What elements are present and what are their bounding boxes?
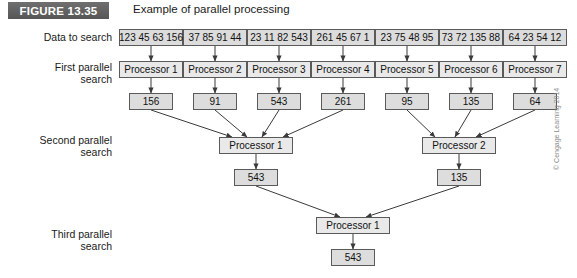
first-processor-box: Processor 3	[247, 61, 311, 78]
data-segment-box: 123 45 63 156	[119, 29, 183, 46]
first-processor-box: Processor 1	[119, 61, 183, 78]
figure-number-badge: FIGURE 13.35	[8, 2, 109, 19]
first-result-box: 261	[321, 93, 365, 110]
figure-caption: Example of parallel processing	[133, 3, 290, 15]
third-processor-box: Processor 1	[316, 217, 390, 234]
data-segment-box: 73 72 135 88	[439, 29, 503, 46]
third-result-box: 543	[331, 249, 375, 266]
data-segment-box: 23 11 82 543	[247, 29, 311, 46]
first-result-box: 95	[385, 93, 429, 110]
first-result-box: 543	[257, 93, 301, 110]
first-processor-box: Processor 5	[375, 61, 439, 78]
label-first-parallel-search: First parallel search	[20, 61, 112, 85]
label-data-to-search: Data to search	[20, 31, 112, 43]
first-processor-box: Processor 2	[183, 61, 247, 78]
first-result-box: 91	[193, 93, 237, 110]
data-segment-box: 64 23 54 12	[503, 29, 567, 46]
second-processor-box: Processor 1	[219, 137, 293, 154]
first-result-box: 64	[513, 93, 557, 110]
first-result-box: 156	[129, 93, 173, 110]
second-processor-box: Processor 2	[422, 137, 496, 154]
label-second-parallel-search: Second parallel search	[20, 134, 112, 158]
first-processor-box: Processor 6	[439, 61, 503, 78]
data-segment-box: 23 75 48 95	[375, 29, 439, 46]
first-result-box: 135	[449, 93, 493, 110]
first-processor-box: Processor 4	[311, 61, 375, 78]
copyright-notice: © Cengage Learning 2014	[553, 88, 560, 170]
label-third-parallel-search: Third parallel search	[20, 228, 112, 252]
data-segment-box: 261 45 67 1	[311, 29, 375, 46]
first-processor-box: Processor 7	[503, 61, 567, 78]
figure-container: FIGURE 13.35 Example of parallel process…	[0, 0, 577, 278]
second-result-box: 135	[437, 169, 481, 186]
second-result-box: 543	[234, 169, 278, 186]
data-segment-box: 37 85 91 44	[183, 29, 247, 46]
